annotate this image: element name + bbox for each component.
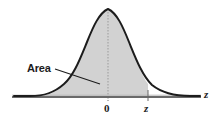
area-annotation-label: Area — [27, 63, 51, 74]
x-axis-label-z: z — [204, 89, 208, 100]
normal-distribution-figure: Area 0 z z — [0, 0, 220, 125]
shaded-area-region — [14, 10, 148, 97]
x-axis-tick-label-z: z — [144, 103, 148, 114]
x-axis-tick-label-zero: 0 — [104, 103, 110, 114]
